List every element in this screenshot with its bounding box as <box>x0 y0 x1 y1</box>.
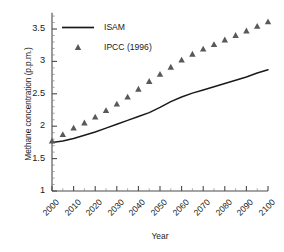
legend-triangle-swatch <box>75 44 81 50</box>
series-marker-ipcc <box>124 94 130 100</box>
x-axis-title: Year <box>52 231 268 241</box>
series-marker-ipcc <box>114 101 120 107</box>
series-line-isam <box>52 70 268 143</box>
series-marker-ipcc <box>70 125 76 131</box>
legend <box>62 28 94 50</box>
legend-item-isam: ISAM <box>104 22 125 32</box>
series-marker-ipcc <box>157 71 163 77</box>
series-marker-ipcc <box>211 41 217 47</box>
series-marker-ipcc <box>81 120 87 126</box>
methane-concentration-chart: Methane concentration (p.p.m.) Year 11.5… <box>0 0 284 252</box>
y-tick-label: 3.5 <box>23 23 45 33</box>
series-marker-ipcc <box>49 138 55 144</box>
y-tick-label: 3 <box>23 55 45 65</box>
series-marker-ipcc <box>232 32 238 38</box>
y-tick-label: 2 <box>23 120 45 130</box>
axes <box>52 13 268 191</box>
series-marker-ipcc <box>243 28 249 34</box>
series-marker-ipcc <box>222 37 228 43</box>
series-marker-ipcc <box>60 131 66 137</box>
series-marker-ipcc <box>189 51 195 57</box>
series-marker-ipcc <box>92 114 98 120</box>
series-marker-ipcc <box>135 86 141 92</box>
series-marker-ipcc <box>254 23 260 29</box>
y-tick-label: 2.5 <box>23 88 45 98</box>
data-series <box>49 18 271 143</box>
series-marker-ipcc <box>168 64 174 70</box>
series-marker-ipcc <box>200 46 206 52</box>
legend-item-ipcc: IPCC (1996) <box>104 42 152 52</box>
series-marker-ipcc <box>103 107 109 113</box>
series-marker-ipcc <box>178 57 184 63</box>
y-tick-label: 1.5 <box>23 153 45 163</box>
series-marker-ipcc <box>146 78 152 84</box>
y-tick-label: 1 <box>23 185 45 195</box>
series-marker-ipcc <box>265 18 271 24</box>
